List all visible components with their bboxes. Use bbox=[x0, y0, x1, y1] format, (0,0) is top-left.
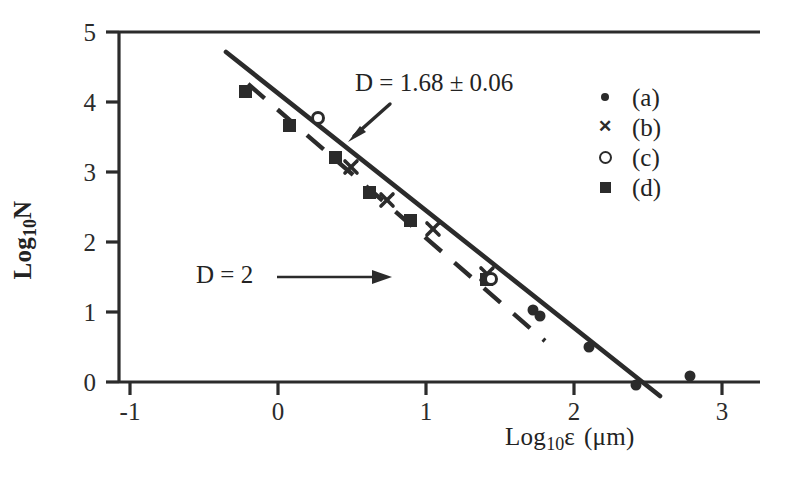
x-tick-label-0: 0 bbox=[272, 399, 285, 424]
y-axis-ticks bbox=[106, 32, 119, 382]
x-tick-label-2: 2 bbox=[568, 399, 581, 424]
data-point bbox=[486, 274, 497, 285]
open-circle-marker-icon bbox=[592, 144, 618, 170]
y-tick-label-0: 0 bbox=[84, 370, 97, 395]
data-point bbox=[535, 311, 546, 322]
series-d-markers bbox=[239, 85, 493, 286]
reference-annotation-arrow bbox=[277, 270, 392, 284]
fit-slope-annotation: D = 1.68 ± 0.06 bbox=[355, 70, 513, 95]
legend-label-c: (c) bbox=[632, 145, 660, 170]
data-point bbox=[239, 85, 252, 98]
y-tick-label-1: 1 bbox=[84, 300, 97, 325]
x-tick-label-1: 1 bbox=[420, 399, 433, 424]
data-point bbox=[329, 151, 342, 164]
x-axis-title: Log10ε(μm) bbox=[505, 424, 635, 453]
data-point bbox=[313, 113, 324, 124]
legend-item-d: (d) bbox=[592, 172, 712, 202]
legend-item-b: ✕ (b) bbox=[592, 112, 712, 142]
cross-marker-icon: ✕ bbox=[592, 114, 618, 140]
figure-container: -1 0 1 2 3 5 4 3 2 1 0 Log10ε(μm) Log10N… bbox=[0, 0, 789, 480]
x-tick-label-neg1: -1 bbox=[120, 399, 141, 424]
filled-circle-marker-icon bbox=[592, 84, 618, 110]
y-tick-label-3: 3 bbox=[84, 160, 97, 185]
reference-slope-annotation: D = 2 bbox=[196, 262, 253, 287]
data-point bbox=[363, 186, 376, 199]
legend-label-b: (b) bbox=[632, 115, 661, 140]
y-tick-label-2: 2 bbox=[84, 230, 97, 255]
filled-square-marker-icon bbox=[592, 174, 618, 200]
y-axis-title-subscript: 10 bbox=[20, 219, 40, 237]
y-tick-label-4: 4 bbox=[84, 90, 97, 115]
data-point bbox=[283, 119, 296, 132]
y-axis-title-symbol: N bbox=[9, 201, 36, 219]
fit-annotation-arrow bbox=[348, 104, 390, 142]
series-c-markers bbox=[313, 113, 497, 285]
x-axis-title-prefix: Log bbox=[505, 423, 546, 450]
data-point bbox=[427, 223, 439, 235]
x-axis-title-symbol: ε bbox=[564, 423, 575, 450]
data-point bbox=[404, 214, 417, 227]
data-point bbox=[685, 371, 696, 382]
legend-label-a: (a) bbox=[632, 85, 660, 110]
data-point bbox=[631, 380, 642, 391]
y-axis-title-prefix: Log bbox=[9, 237, 36, 280]
legend-label-d: (d) bbox=[632, 175, 661, 200]
series-a-markers bbox=[528, 305, 696, 391]
x-axis-title-subscript: 10 bbox=[546, 434, 564, 454]
x-axis-title-units: (μm) bbox=[584, 423, 635, 450]
legend-item-a: (a) bbox=[592, 82, 712, 112]
legend: (a) ✕ (b) (c) (d) bbox=[592, 82, 712, 202]
y-tick-label-5: 5 bbox=[84, 20, 97, 45]
data-point bbox=[584, 342, 595, 353]
x-tick-label-3: 3 bbox=[716, 399, 729, 424]
series-b-markers bbox=[345, 161, 493, 280]
legend-item-c: (c) bbox=[592, 142, 712, 172]
y-axis-title: Log10N bbox=[10, 201, 39, 280]
